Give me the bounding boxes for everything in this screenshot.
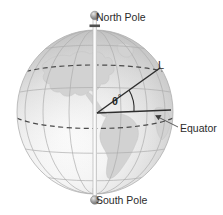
- angle-theta-label: θ°: [112, 94, 121, 107]
- south-pole-label: South Pole: [96, 195, 147, 206]
- axis-collar-top: [90, 25, 101, 28]
- polar-axis-rod-inner: [93, 30, 97, 194]
- north-pole-label: North Pole: [96, 12, 146, 23]
- degree-symbol: °: [118, 93, 121, 102]
- globe-diagram: [0, 0, 223, 215]
- line-l-label: L: [158, 60, 164, 71]
- equator-label: Equator: [180, 123, 217, 134]
